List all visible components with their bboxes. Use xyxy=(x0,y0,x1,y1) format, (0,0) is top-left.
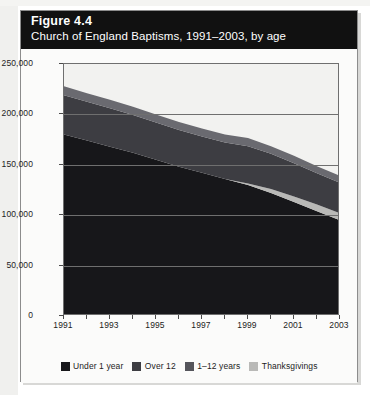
y-tick-mark xyxy=(59,164,63,165)
y-tick-mark xyxy=(59,113,63,114)
x-tick-label: 1993 xyxy=(99,320,118,330)
page-margin-top xyxy=(0,0,370,6)
y-tick-label: 150,000 xyxy=(2,159,33,169)
legend-swatch-icon xyxy=(249,362,258,371)
figure-subtitle: Church of England Baptisms, 1991–2003, b… xyxy=(31,29,357,44)
x-tick-mark xyxy=(270,315,271,319)
x-tick-mark xyxy=(155,315,156,319)
y-tick-label: 250,000 xyxy=(2,58,33,68)
x-tick-mark xyxy=(339,315,340,319)
page-root: Figure 4.4 Church of England Baptisms, 1… xyxy=(0,0,370,395)
x-tick-label: 2001 xyxy=(283,320,302,330)
legend-label: Under 1 year xyxy=(73,361,123,371)
figure-card: Figure 4.4 Church of England Baptisms, 1… xyxy=(20,10,358,382)
legend-label: Thanksgivings xyxy=(262,361,318,371)
stacked-area-chart xyxy=(64,64,339,315)
x-tick-label: 2003 xyxy=(329,320,348,330)
x-tick-mark xyxy=(201,315,202,319)
y-tick-label: 100,000 xyxy=(2,209,33,219)
x-tick-mark xyxy=(132,315,133,319)
legend-item: Under 1 year xyxy=(61,361,124,371)
x-tick-mark xyxy=(316,315,317,319)
figure-number: Figure 4.4 xyxy=(31,14,357,29)
y-tick-label: 50,000 xyxy=(6,260,33,270)
x-tick-mark xyxy=(86,315,87,319)
y-tick-label: 200,000 xyxy=(2,108,33,118)
y-tick-label: 0 xyxy=(28,310,33,320)
y-tick-mark xyxy=(59,265,63,266)
plot-frame xyxy=(63,63,339,315)
x-tick-mark xyxy=(247,315,248,319)
chart-legend: Under 1 yearOver 121–12 yearsThanksgivin… xyxy=(21,361,357,371)
gridline xyxy=(64,215,338,216)
legend-swatch-icon xyxy=(185,362,194,371)
x-tick-mark xyxy=(293,315,294,319)
x-tick-label: 1999 xyxy=(237,320,256,330)
x-tick-mark xyxy=(63,315,64,319)
gridline xyxy=(64,165,338,166)
x-tick-mark xyxy=(224,315,225,319)
figure-title-bar: Figure 4.4 Church of England Baptisms, 1… xyxy=(21,11,357,49)
y-tick-mark xyxy=(59,214,63,215)
x-tick-mark xyxy=(109,315,110,319)
y-tick-mark xyxy=(59,63,63,64)
chart-area: 050,000100,000150,000200,000250,000 1991… xyxy=(21,49,357,383)
legend-label: 1–12 years xyxy=(197,361,240,371)
x-tick-mark xyxy=(178,315,179,319)
x-tick-label: 1995 xyxy=(145,320,164,330)
x-tick-label: 1991 xyxy=(53,320,72,330)
legend-item: Thanksgivings xyxy=(249,361,317,371)
legend-item: 1–12 years xyxy=(185,361,241,371)
legend-swatch-icon xyxy=(132,362,141,371)
gridline xyxy=(64,114,338,115)
gridline xyxy=(64,266,338,267)
legend-swatch-icon xyxy=(61,362,70,371)
x-tick-label: 1997 xyxy=(191,320,210,330)
legend-item: Over 12 xyxy=(132,361,175,371)
legend-label: Over 12 xyxy=(145,361,176,371)
